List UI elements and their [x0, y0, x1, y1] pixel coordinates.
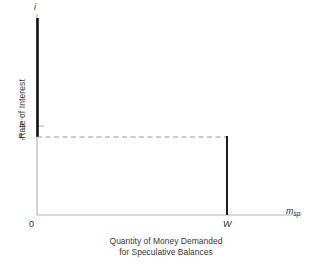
y-tick-label-ic: ic — [20, 130, 327, 140]
origin-label: 0 — [29, 219, 34, 229]
y-axis-title: Rate of Interest — [17, 49, 27, 169]
y-tick-label-in: in — [20, 118, 327, 128]
x-axis-symbol-base: m — [286, 206, 294, 216]
y-axis-symbol: i — [34, 2, 36, 12]
y-tick-ic-subscript: c — [22, 135, 25, 141]
x-axis-symbol: msp — [286, 206, 300, 216]
caption-line-2: for Speculative Balances — [46, 247, 286, 258]
chart-caption: Quantity of Money Demanded for Speculati… — [46, 236, 286, 258]
x-tick-label-w: W — [223, 219, 232, 229]
caption-line-1: Quantity of Money Demanded — [46, 236, 286, 247]
y-tick-in-subscript: n — [22, 123, 25, 129]
x-axis-symbol-subscript: sp — [294, 210, 301, 217]
chart-figure: Rate of Interest i msp in ic 0 W Quantit… — [0, 0, 327, 270]
